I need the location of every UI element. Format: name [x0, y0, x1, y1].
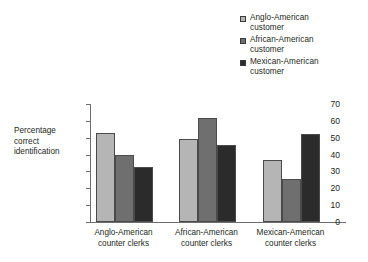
x-axis-line	[90, 222, 346, 223]
y-axis-tick	[86, 171, 90, 172]
x-axis-category-label: Anglo-American counter clerks	[82, 228, 166, 249]
legend-swatch-icon	[240, 38, 246, 44]
bar	[198, 118, 217, 223]
x-axis-category-label: Mexican-American counter clerks	[249, 228, 333, 249]
legend-swatch-icon	[240, 60, 246, 66]
plot-area: 706050403020100 Anglo-American counter c…	[90, 104, 346, 223]
y-axis-tick	[86, 138, 90, 139]
bar	[134, 167, 153, 222]
bar-series-container	[91, 104, 346, 222]
bar	[179, 139, 198, 222]
x-axis-category-label: African-American counter clerks	[165, 228, 249, 249]
y-axis-tick	[86, 222, 90, 223]
legend-item: African-American customer	[240, 35, 368, 54]
legend-item: Anglo-American customer	[240, 13, 368, 32]
legend-item-label: Mexican-American customer	[250, 57, 319, 76]
chart-legend: Anglo-American customer African-American…	[240, 13, 368, 80]
bar	[282, 179, 301, 222]
legend-item-label: Anglo-American customer	[250, 13, 309, 32]
y-axis-tick	[86, 188, 90, 189]
bar	[263, 160, 282, 222]
bar	[301, 134, 320, 222]
x-axis-labels: Anglo-American counter clerksAfrican-Ame…	[90, 228, 346, 256]
legend-swatch-icon	[240, 16, 246, 22]
bar-chart-figure: Anglo-American customer African-American…	[0, 0, 368, 262]
legend-item: Mexican-American customer	[240, 57, 368, 76]
y-axis-tick	[86, 155, 90, 156]
y-axis-title: Percentage correct identification	[14, 126, 88, 158]
legend-item-label: African-American customer	[250, 35, 314, 54]
bar	[217, 145, 236, 222]
y-axis-tick	[86, 205, 90, 206]
y-axis-tick	[86, 104, 90, 105]
y-axis-tick	[86, 121, 90, 122]
bar	[115, 155, 134, 222]
bar	[96, 133, 115, 222]
